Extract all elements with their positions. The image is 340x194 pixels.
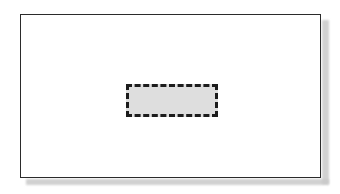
frame-drop-shadow-bottom <box>26 179 329 185</box>
frame-drop-shadow-right <box>322 20 329 184</box>
diagram-canvas <box>0 0 340 194</box>
outer-frame-rectangle <box>20 14 321 178</box>
dashed-selection-rectangle[interactable] <box>126 84 218 117</box>
